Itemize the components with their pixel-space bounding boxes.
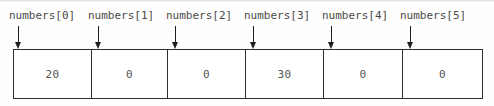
pointer-arrow-icon-2 (171, 26, 180, 50)
array-cell-value: 0 (439, 69, 446, 80)
pointer-arrow-icon-1 (94, 26, 103, 50)
array-cell-4: 0 (324, 50, 403, 98)
array-cell-value: 20 (45, 69, 59, 80)
array-cell-5: 0 (403, 50, 482, 98)
array-index-label-5: numbers[5] (400, 8, 466, 23)
arrow-head (328, 42, 334, 49)
array-cell-value: 30 (277, 69, 291, 80)
array-container: 20 0 0 30 0 0 (13, 49, 483, 99)
arrow-head (15, 42, 21, 49)
array-cell-value: 0 (203, 69, 210, 80)
array-diagram: numbers[0] numbers[1] numbers[2] numbers… (0, 0, 494, 106)
array-cell-value: 0 (359, 69, 366, 80)
pointer-arrow-icon-3 (249, 26, 258, 50)
array-cell-3: 30 (246, 50, 324, 98)
array-cell-1: 0 (92, 50, 168, 98)
pointer-arrow-icon-0 (14, 26, 23, 50)
pointer-arrow-icon-4 (327, 26, 336, 50)
array-index-label-0: numbers[0] (9, 8, 75, 23)
array-cell-2: 0 (168, 50, 246, 98)
array-index-label-4: numbers[4] (322, 8, 388, 23)
arrow-head (407, 42, 413, 49)
arrow-head (172, 42, 178, 49)
scan-artifact-line (0, 0, 494, 2)
array-cell-0: 20 (14, 50, 92, 98)
array-index-label-3: numbers[3] (244, 8, 310, 23)
arrow-head (95, 42, 101, 49)
pointer-arrow-icon-5 (406, 26, 415, 50)
arrow-head (250, 42, 256, 49)
array-index-label-1: numbers[1] (88, 8, 154, 23)
array-cell-value: 0 (126, 69, 133, 80)
array-index-label-2: numbers[2] (166, 8, 232, 23)
